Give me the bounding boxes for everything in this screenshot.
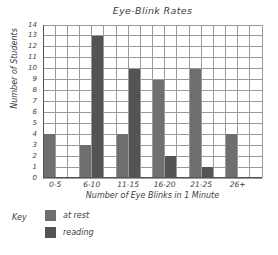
bar [226, 134, 237, 178]
y-axis-tick-labels: 01234567891011121314 [0, 25, 41, 178]
legend-label-at-rest: at rest [63, 211, 89, 220]
y-tick-label: 8 [33, 87, 37, 94]
y-tick-label: 4 [33, 131, 37, 138]
bar [80, 145, 91, 178]
y-tick-label: 1 [33, 164, 37, 171]
legend-swatch-at-rest [45, 210, 56, 221]
y-tick-label: 3 [33, 142, 37, 149]
bar [165, 156, 176, 178]
y-tick-label: 6 [33, 109, 37, 116]
y-tick-label: 5 [33, 120, 37, 127]
y-tick-label: 13 [28, 32, 37, 39]
plot-area [43, 25, 262, 178]
bar [190, 69, 201, 178]
x-tick-label: 0-5 [49, 180, 61, 189]
y-axis-line [43, 25, 44, 178]
x-tick-label: 6-10 [83, 180, 100, 189]
bar [44, 134, 55, 178]
legend-label-reading: reading [63, 228, 94, 237]
y-tick-label: 2 [33, 153, 37, 160]
x-axis-line [43, 177, 262, 178]
y-tick-label: 10 [28, 65, 37, 72]
x-tick-label: 26+ [230, 180, 246, 189]
x-tick-label: 11-15 [117, 180, 139, 189]
bar [117, 134, 128, 178]
bar [92, 36, 103, 178]
y-tick-label: 14 [28, 22, 37, 29]
x-axis-title: Number of Eye Blinks in 1 Minute [43, 191, 262, 200]
bars-layer [43, 25, 262, 178]
bar [129, 69, 140, 178]
y-tick-label: 11 [28, 54, 37, 61]
x-tick-label: 16-20 [154, 180, 176, 189]
y-tick-label: 0 [33, 175, 37, 182]
legend: Key at rest reading [12, 209, 162, 249]
legend-swatch-reading [45, 227, 56, 238]
y-tick-label: 12 [28, 43, 37, 50]
y-tick-label: 9 [33, 76, 37, 83]
legend-title: Key [12, 213, 27, 222]
bar [153, 80, 164, 178]
chart-title: Eye-Blink Rates [43, 5, 262, 16]
y-tick-label: 7 [33, 98, 37, 105]
x-tick-label: 21-25 [190, 180, 212, 189]
chart-container: Eye-Blink Rates Number of Students 01234… [0, 0, 278, 255]
